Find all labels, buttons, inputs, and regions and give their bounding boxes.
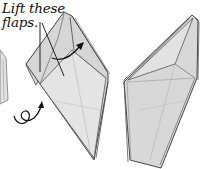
turn-over-arrow-icon bbox=[14, 101, 44, 123]
instruction-caption: Lift these flaps. bbox=[2, 1, 65, 29]
right-model bbox=[124, 15, 199, 168]
instruction-line-2: flaps. bbox=[2, 15, 65, 29]
middle-model bbox=[26, 12, 110, 160]
instruction-line-1: Lift these bbox=[2, 1, 65, 15]
left-model-fragment bbox=[0, 50, 8, 104]
origami-diagram: Lift these flaps. bbox=[0, 0, 202, 169]
